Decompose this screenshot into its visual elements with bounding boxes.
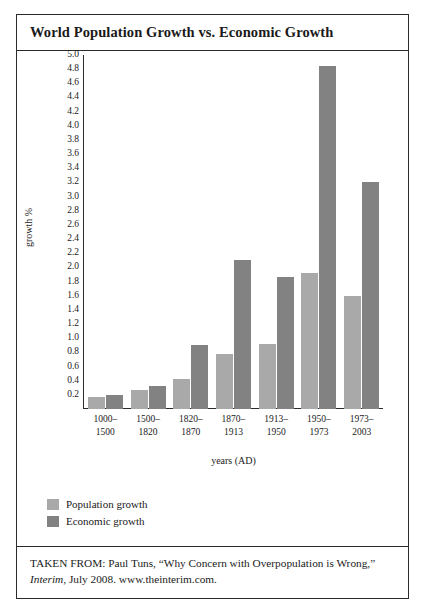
x-tick-line: 1913– xyxy=(255,413,298,426)
bar-economic xyxy=(106,395,123,409)
y-tick-label: 4.2 xyxy=(67,107,79,117)
y-axis-label: growth % xyxy=(23,208,34,247)
bar-economic xyxy=(149,386,166,409)
bar-group xyxy=(212,55,255,409)
bar-economic xyxy=(234,260,251,409)
plot-wrapper: growth % 0.20.40.60.81.01.21.41.61.82.02… xyxy=(17,51,408,495)
figure-page: World Population Growth vs. Economic Gro… xyxy=(0,0,425,613)
y-tick-label: 1.8 xyxy=(67,277,79,287)
y-tick-label: 3.6 xyxy=(67,149,79,159)
chart-area: growth % 0.20.40.60.81.01.21.41.61.82.02… xyxy=(17,51,408,546)
x-tick-label: 1973–2003 xyxy=(340,413,383,439)
x-axis-label: years (AD) xyxy=(84,455,383,466)
legend-item-population: Population growth xyxy=(47,497,307,512)
bar-population xyxy=(301,273,318,409)
legend-item-economic: Economic growth xyxy=(47,514,307,529)
y-tick-label: 5.0 xyxy=(67,50,79,60)
bar-population xyxy=(216,354,233,409)
y-tick-label: 0.6 xyxy=(67,362,79,372)
figure-title-bar: World Population Growth vs. Economic Gro… xyxy=(17,15,408,51)
y-tick-label: 1.0 xyxy=(67,333,79,343)
x-tick-label: 1950–1973 xyxy=(298,413,341,439)
x-tick-line: 1950– xyxy=(298,413,341,426)
source-suffix: , July 2008. www.theinterim.com. xyxy=(63,573,217,585)
y-tick-label: 2.8 xyxy=(67,206,79,216)
legend-label-population: Population growth xyxy=(66,499,148,510)
bar-economic xyxy=(319,66,336,409)
bar-economic xyxy=(191,345,208,409)
bar-population xyxy=(131,390,148,409)
y-tick-label: 0.4 xyxy=(67,376,79,386)
x-tick-line: 1870 xyxy=(169,426,212,439)
y-tick-label: 0.2 xyxy=(67,390,79,400)
page-title: World Population Growth vs. Economic Gro… xyxy=(30,24,333,41)
x-tick-label: 1500–1820 xyxy=(127,413,170,439)
y-axis-tick-labels: 0.20.40.60.81.01.21.41.61.82.02.22.42.62… xyxy=(41,51,79,495)
x-tick-line: 1000– xyxy=(84,413,127,426)
x-tick-line: 1973 xyxy=(298,426,341,439)
source-publication: Interim xyxy=(30,573,63,585)
x-tick-line: 1950 xyxy=(255,426,298,439)
bar-group xyxy=(255,55,298,409)
bar-group xyxy=(298,55,341,409)
bar-population xyxy=(173,379,190,409)
x-tick-line: 2003 xyxy=(340,426,383,439)
x-tick-line: 1973– xyxy=(340,413,383,426)
bar-group xyxy=(127,55,170,409)
y-tick-label: 1.4 xyxy=(67,305,79,315)
x-axis-tick-labels: 1000–15001500–18201820–18701870–19131913… xyxy=(84,413,383,453)
x-tick-label: 1820–1870 xyxy=(169,413,212,439)
x-tick-label: 1913–1950 xyxy=(255,413,298,439)
source-caption: TAKEN FROM: Paul Tuns, “Why Concern with… xyxy=(30,555,396,587)
bar-economic xyxy=(362,182,379,409)
x-tick-line: 1870– xyxy=(212,413,255,426)
y-tick-label: 1.6 xyxy=(67,291,79,301)
y-tick-label: 3.4 xyxy=(67,164,79,174)
y-tick-label: 2.2 xyxy=(67,248,79,258)
y-tick-label: 3.8 xyxy=(67,135,79,145)
y-tick-label: 4.4 xyxy=(67,93,79,103)
legend-swatch-population-icon xyxy=(47,499,59,510)
x-tick-line: 1820 xyxy=(127,426,170,439)
y-tick-label: 0.8 xyxy=(67,348,79,358)
x-tick-label: 1000–1500 xyxy=(84,413,127,439)
y-tick-label: 3.0 xyxy=(67,192,79,202)
y-tick-label: 4.6 xyxy=(67,79,79,89)
y-tick-label: 4.8 xyxy=(67,64,79,74)
bar-economic xyxy=(277,277,294,409)
bar-group xyxy=(84,55,127,409)
bar-group xyxy=(169,55,212,409)
figure-source-footer: TAKEN FROM: Paul Tuns, “Why Concern with… xyxy=(17,546,408,598)
bar-population xyxy=(259,344,276,409)
x-tick-line: 1820– xyxy=(169,413,212,426)
y-tick-label: 4.0 xyxy=(67,121,79,131)
y-tick-label: 2.6 xyxy=(67,220,79,230)
y-tick-label: 1.2 xyxy=(67,319,79,329)
bar-population xyxy=(344,296,361,409)
figure-frame: World Population Growth vs. Economic Gro… xyxy=(16,14,409,599)
y-tick-label: 2.4 xyxy=(67,234,79,244)
bar-plot-region xyxy=(84,55,383,409)
y-tick-label: 2.0 xyxy=(67,263,79,273)
bar-population xyxy=(88,397,105,409)
x-tick-line: 1913 xyxy=(212,426,255,439)
bar-group xyxy=(340,55,383,409)
x-tick-line: 1500– xyxy=(127,413,170,426)
x-tick-label: 1870–1913 xyxy=(212,413,255,439)
legend-label-economic: Economic growth xyxy=(66,516,145,527)
x-tick-line: 1500 xyxy=(84,426,127,439)
legend-swatch-economic-icon xyxy=(47,516,59,527)
chart-legend: Population growth Economic growth xyxy=(47,497,307,531)
source-prefix: TAKEN FROM: Paul Tuns, “Why Concern with… xyxy=(30,557,375,569)
y-tick-label: 3.2 xyxy=(67,178,79,188)
